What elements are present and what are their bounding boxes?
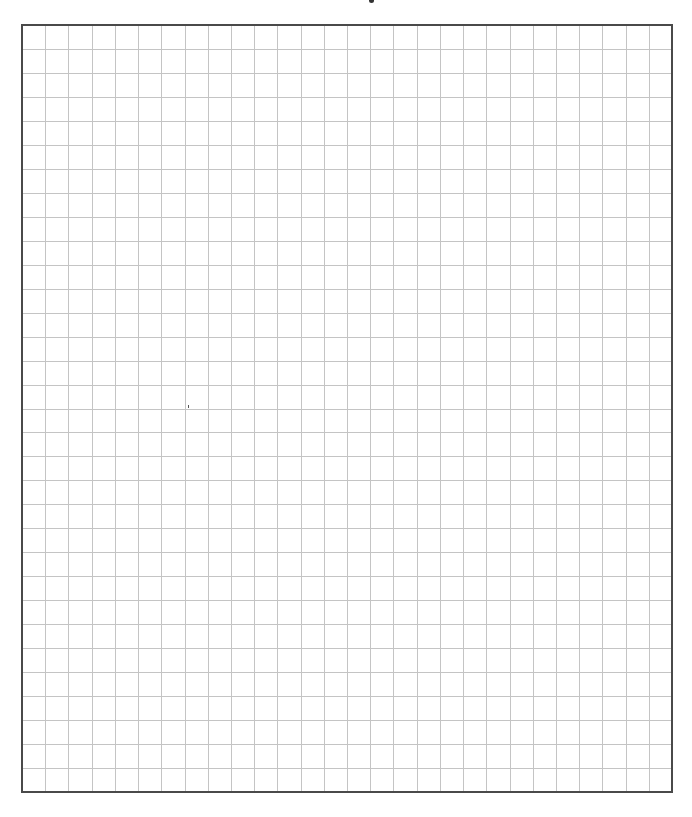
grid	[0, 0, 692, 817]
graph-paper-page	[0, 0, 692, 817]
scan-speck	[188, 405, 189, 408]
grid-lines	[22, 25, 672, 792]
